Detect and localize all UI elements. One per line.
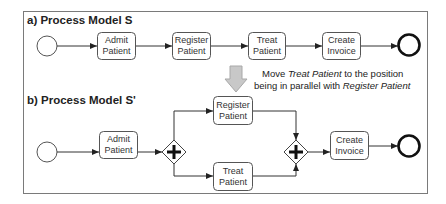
sequence-flow xyxy=(174,164,213,176)
task-label: Patient xyxy=(219,111,248,121)
task-label: Treat xyxy=(223,166,244,176)
task-label: Patient xyxy=(219,177,248,187)
model-b-title: b) Process Model S' xyxy=(27,94,136,106)
task-label: Admit xyxy=(105,35,129,45)
task-label: Admit xyxy=(107,134,131,144)
down-arrow-icon xyxy=(225,66,247,92)
task-label: Register xyxy=(216,100,250,110)
parallel-join-gateway-icon xyxy=(284,140,308,164)
task-label: Invoice xyxy=(335,146,364,156)
parallel-split-gateway-icon xyxy=(162,140,186,164)
sequence-flow xyxy=(174,111,213,140)
sequence-flow xyxy=(253,111,296,140)
task-create-invoice-b[interactable]: Create Invoice xyxy=(331,132,369,160)
task-label: Patient xyxy=(177,46,206,56)
task-treat-patient-a[interactable]: Treat Patient xyxy=(249,33,286,60)
model-a-title: a) Process Model S xyxy=(27,14,133,26)
transformation-note-line2: being in parallel with Register Patient xyxy=(254,80,411,91)
task-create-invoice-a[interactable]: Create Invoice xyxy=(323,33,361,60)
sequence-flow xyxy=(253,164,296,176)
task-treat-patient-b[interactable]: Treat Patient xyxy=(214,163,253,191)
task-label: Treat xyxy=(257,35,278,45)
task-label: Create xyxy=(328,35,355,45)
end-event-icon xyxy=(399,35,420,56)
task-label: Register xyxy=(175,35,209,45)
end-event-icon xyxy=(399,136,420,157)
task-admit-patient-b[interactable]: Admit Patient xyxy=(100,132,138,159)
task-label: Create xyxy=(336,135,363,145)
task-register-patient-a[interactable]: Register Patient xyxy=(173,33,211,60)
task-register-patient-b[interactable]: Register Patient xyxy=(214,97,253,125)
task-label: Patient xyxy=(253,46,282,56)
task-admit-patient-a[interactable]: Admit Patient xyxy=(98,33,136,60)
transformation-note-line1: Move Treat Patient to the position xyxy=(262,68,403,79)
start-event-icon xyxy=(37,142,57,162)
process-model-diagram: a) Process Model S Admit Patient Registe… xyxy=(0,0,446,204)
task-label: Patient xyxy=(104,145,133,155)
task-label: Invoice xyxy=(327,46,356,56)
start-event-icon xyxy=(37,36,57,56)
task-label: Patient xyxy=(102,46,131,56)
